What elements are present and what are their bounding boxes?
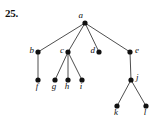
tree-edge-c-i xyxy=(68,52,82,80)
tree-node-label-c: c xyxy=(60,45,64,55)
tree-nodes xyxy=(35,20,148,108)
tree-node-label-j: j xyxy=(135,72,139,82)
tree-edge-c-g xyxy=(55,52,68,80)
tree-node-label-f: f xyxy=(36,81,40,91)
tree-node-c xyxy=(65,49,70,54)
tree-diagram: abcdefghijkl xyxy=(0,0,159,123)
tree-node-b xyxy=(35,49,40,54)
tree-node-label-b: b xyxy=(30,45,35,55)
tree-edge-a-c xyxy=(68,23,85,52)
tree-edge-j-k xyxy=(117,80,131,106)
tree-node-d xyxy=(96,49,101,54)
tree-node-label-e: e xyxy=(135,45,139,55)
tree-node-label-h: h xyxy=(65,81,70,91)
tree-node-labels: abcdefghijkl xyxy=(30,10,147,117)
figure-page: 25. abcdefghijkl xyxy=(0,0,159,123)
tree-node-j xyxy=(128,77,133,82)
tree-edge-e-j xyxy=(130,52,131,80)
tree-node-e xyxy=(127,49,132,54)
tree-edges xyxy=(38,23,146,106)
tree-node-label-k: k xyxy=(114,107,119,117)
tree-edge-j-l xyxy=(131,80,146,106)
tree-node-label-d: d xyxy=(91,45,96,55)
tree-node-label-a: a xyxy=(79,10,84,20)
tree-node-a xyxy=(82,20,87,25)
tree-node-label-g: g xyxy=(52,81,57,91)
